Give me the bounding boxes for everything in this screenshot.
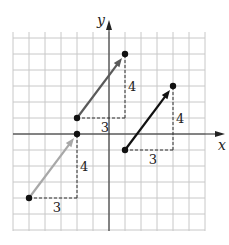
vector-shaft <box>77 63 118 118</box>
y-axis-label: y <box>96 12 106 28</box>
end-point <box>170 83 176 89</box>
start-point <box>122 147 128 153</box>
start-point <box>74 115 80 121</box>
vector-shaft <box>125 95 166 150</box>
start-point <box>26 195 32 201</box>
end-point <box>74 131 80 137</box>
rise-label: 4 <box>176 111 184 126</box>
run-label: 3 <box>149 152 157 167</box>
vector-mid: 34 <box>74 51 136 135</box>
vector-diagram: x y 343434 <box>0 0 229 245</box>
vector-light: 34 <box>26 131 88 215</box>
y-axis-arrow-icon <box>106 20 112 30</box>
run-label: 3 <box>53 200 61 215</box>
x-axis-label: x <box>218 137 226 153</box>
vector-dark: 34 <box>122 83 184 167</box>
end-point <box>122 51 128 57</box>
run-label: 3 <box>101 120 109 135</box>
vector-shaft <box>29 143 70 198</box>
rise-label: 4 <box>80 159 88 174</box>
rise-label: 4 <box>128 79 136 94</box>
vectors: 343434 <box>26 51 184 215</box>
